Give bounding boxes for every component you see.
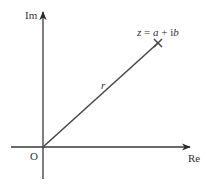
equals-sign: =: [141, 26, 153, 38]
point-z-marker: [154, 39, 162, 47]
real-axis-label: Re: [188, 152, 200, 164]
point-z-label: z = a + ib: [136, 26, 179, 38]
modulus-label: r: [101, 79, 106, 91]
imaginary-axis-label: Im: [25, 9, 38, 21]
plus-i: + i: [159, 26, 174, 38]
argand-diagram: Im Re O r z = a + ib: [0, 0, 214, 187]
origin-label: O: [30, 150, 38, 162]
modulus-ray: [43, 43, 158, 147]
b-symbol: b: [173, 26, 179, 38]
